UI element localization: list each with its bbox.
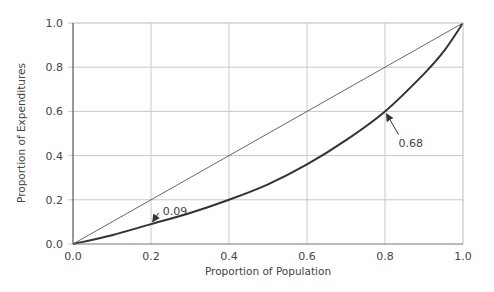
x-tick-label: 1.0 (454, 250, 472, 263)
x-tick-label: 0.4 (220, 250, 238, 263)
x-axis-title: Proportion of Population (205, 265, 331, 277)
x-tick-label: 0.6 (298, 250, 316, 263)
x-tick-label: 0.8 (376, 250, 394, 263)
series-group (73, 23, 463, 244)
concentration-curve-chart: 0.00.20.40.60.81.0 0.00.20.40.60.81.0 0.… (0, 0, 494, 292)
x-tick-label: 0.0 (64, 250, 82, 263)
y-tick-label: 0.2 (46, 194, 64, 207)
x-tick-labels: 0.00.20.40.60.81.0 (64, 250, 472, 263)
equality-diagonal-line (73, 23, 463, 244)
y-axis-title: Proportion of Expenditures (15, 63, 27, 203)
annotation-label: 0.68 (399, 137, 424, 150)
annotation-label: 0.09 (163, 205, 188, 218)
y-tick-labels: 0.00.20.40.60.81.0 (46, 17, 64, 251)
y-tick-label: 0.4 (46, 150, 64, 163)
annotation-arrow (153, 213, 159, 222)
x-tick-label: 0.2 (142, 250, 160, 263)
y-tick-label: 0.6 (46, 105, 64, 118)
y-tick-label: 0.0 (46, 238, 64, 251)
y-tick-label: 0.8 (46, 61, 64, 74)
annotations: 0.090.68 (153, 114, 423, 222)
annotation-arrow (387, 114, 399, 135)
y-tick-label: 1.0 (46, 17, 64, 30)
